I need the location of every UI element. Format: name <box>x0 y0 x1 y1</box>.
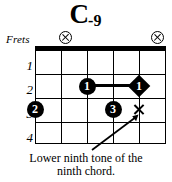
chord-diagram-figure: C-9 Frets 1 2 3 4 1 1 2 3 <box>0 0 172 182</box>
annotation-caption-line-2: ninth chord. <box>0 165 172 178</box>
annotation-caption: Lower ninth tone of the ninth chord. <box>0 152 172 178</box>
